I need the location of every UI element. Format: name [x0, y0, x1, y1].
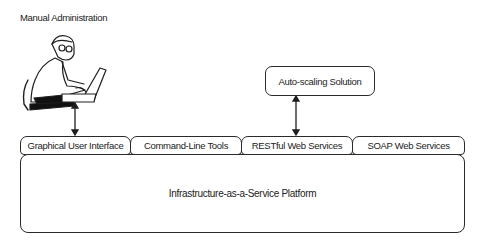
interface-soap-tab: SOAP Web Services	[352, 136, 465, 155]
iaas-platform-box: Infrastructure-as-a-Service Platform	[20, 154, 465, 233]
interface-cli-tab: Command-Line Tools	[130, 136, 242, 155]
interface-gui-tab: Graphical User Interface	[20, 136, 131, 155]
autoscaling-solution-box: Auto-scaling Solution	[265, 66, 375, 96]
interface-rest-tab: RESTful Web Services	[241, 136, 353, 155]
